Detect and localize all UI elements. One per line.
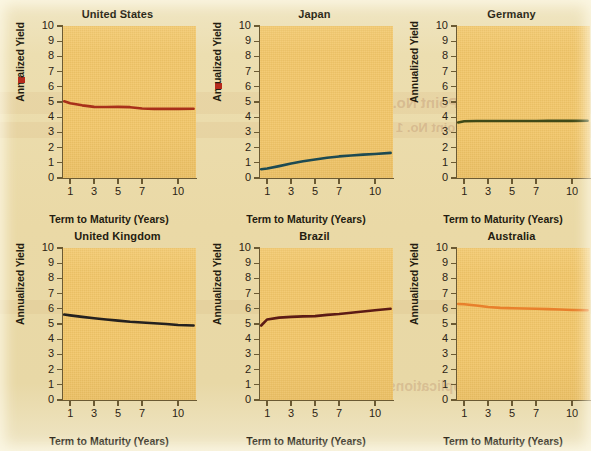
panel-australia: Australia Annualized Yield 1098765432101… [394, 226, 591, 451]
x-axis-tick [487, 401, 488, 406]
y-axis-tick [57, 56, 62, 57]
y-axis-tick [451, 278, 456, 279]
y-axis-tick [57, 101, 62, 102]
y-axis-tick-label: 0 [26, 393, 54, 405]
y-axis-tick [451, 399, 456, 400]
x-axis-tick-label: 1 [59, 407, 81, 419]
x-axis-tick [266, 401, 267, 406]
y-axis-tick [57, 41, 62, 42]
y-axis-tick-label: 5 [26, 95, 54, 107]
x-axis-tick-label: 3 [83, 185, 105, 197]
y-axis-tick [57, 339, 62, 340]
panel-germany: Germany Annualized Yield 109876543210135… [394, 4, 591, 229]
series-line [63, 26, 196, 178]
y-axis-tick-label: 7 [223, 287, 251, 299]
y-axis-tick-label: 9 [26, 256, 54, 268]
y-axis-tick-label: 10 [420, 241, 448, 253]
y-axis-tick-label: 4 [420, 332, 448, 344]
y-axis-tick-label: 7 [26, 287, 54, 299]
y-axis-tick [57, 369, 62, 370]
panel-title: Japan [237, 8, 392, 20]
x-axis-label: Term to Maturity (Years) [418, 435, 588, 447]
x-axis-tick-label: 10 [167, 185, 189, 197]
y-axis-tick [451, 71, 456, 72]
x-axis-tick-label: 7 [328, 185, 350, 197]
y-axis-tick-label: 3 [26, 347, 54, 359]
y-axis-tick-label: 8 [223, 49, 251, 61]
figure-page: Point-CounterPoint No. 1 CounterPoint No… [0, 0, 591, 451]
x-axis-tick-label: 3 [477, 407, 499, 419]
panel-grid: United States Annalized Yield 1098765432… [0, 0, 591, 451]
x-axis-tick [571, 179, 572, 184]
y-axis-tick [451, 263, 456, 264]
x-axis-tick-label: 7 [328, 407, 350, 419]
y-axis-tick-label: 2 [26, 363, 54, 375]
x-axis-tick-label: 3 [280, 407, 302, 419]
x-axis-tick [511, 179, 512, 184]
y-axis-tick-label: 0 [223, 171, 251, 183]
x-axis-tick-label: 1 [453, 185, 475, 197]
y-axis-tick-label: 6 [26, 302, 54, 314]
panel-japan: Japan Anualized Yield 109876543210135710… [197, 4, 394, 229]
y-axis-tick [57, 25, 62, 26]
series-line [260, 248, 393, 400]
panel-title: Germany [434, 8, 589, 20]
panel-united-kingdom: United Kingdom Annualized Yield 10987654… [0, 226, 197, 451]
x-axis-tick-label: 10 [561, 407, 583, 419]
y-axis-tick-label: 9 [420, 256, 448, 268]
x-axis-tick [117, 179, 118, 184]
y-axis-tick [254, 278, 259, 279]
x-axis-tick-label: 10 [364, 407, 386, 419]
y-axis-tick [57, 308, 62, 309]
y-axis-tick [57, 147, 62, 148]
y-axis-tick-label: 5 [223, 317, 251, 329]
series-line [457, 26, 590, 178]
y-axis-label: Annualized Yield [408, 231, 420, 337]
x-axis-tick [338, 401, 339, 406]
x-axis-label: Term to Maturity (Years) [24, 435, 194, 447]
y-axis-tick [57, 399, 62, 400]
y-axis-label: Annualized Yield [211, 231, 223, 337]
print-artifact-icon [215, 83, 222, 89]
y-axis-tick-label: 4 [26, 332, 54, 344]
y-axis-tick [451, 308, 456, 309]
y-axis-spine [456, 247, 457, 401]
x-axis-tick [69, 401, 70, 406]
y-axis-spine [259, 247, 260, 401]
y-axis-tick [254, 354, 259, 355]
y-axis-tick [254, 101, 259, 102]
y-axis-tick-label: 6 [223, 80, 251, 92]
y-axis-tick-label: 9 [26, 34, 54, 46]
y-axis-tick [451, 86, 456, 87]
y-axis-tick [254, 71, 259, 72]
y-axis-tick-label: 0 [26, 171, 54, 183]
x-axis-tick [338, 179, 339, 184]
series-line [63, 248, 196, 400]
x-axis-tick [69, 179, 70, 184]
y-axis-tick [451, 25, 456, 26]
y-axis-tick [254, 369, 259, 370]
y-axis-tick-label: 7 [420, 65, 448, 77]
y-axis-tick-label: 0 [420, 171, 448, 183]
y-axis-tick [57, 293, 62, 294]
x-axis-tick [463, 401, 464, 406]
x-axis-label: Term to Maturity (Years) [418, 213, 588, 225]
y-axis-tick-label: 10 [26, 241, 54, 253]
x-axis-tick-label: 10 [364, 185, 386, 197]
y-axis-tick-label: 4 [223, 332, 251, 344]
x-axis-label: Term to Maturity (Years) [24, 213, 194, 225]
x-axis-tick [177, 179, 178, 184]
x-axis-tick [314, 401, 315, 406]
y-axis-tick [451, 56, 456, 57]
y-axis-tick [254, 323, 259, 324]
y-axis-tick-label: 9 [420, 34, 448, 46]
y-axis-tick [254, 293, 259, 294]
y-axis-tick-label: 4 [223, 110, 251, 122]
y-axis-tick [57, 384, 62, 385]
y-axis-tick [254, 399, 259, 400]
y-axis-tick-label: 8 [26, 49, 54, 61]
x-axis-tick-label: 7 [131, 407, 153, 419]
y-axis-tick [57, 323, 62, 324]
y-axis-tick [254, 339, 259, 340]
y-axis-tick [57, 71, 62, 72]
